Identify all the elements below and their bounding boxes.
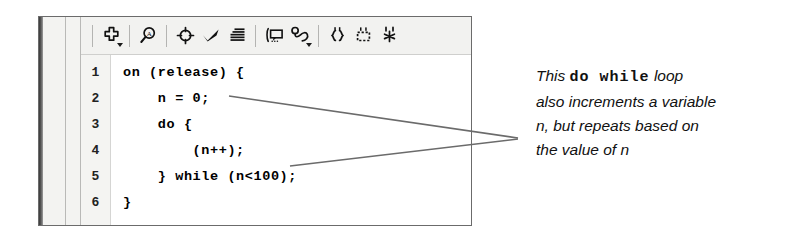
- code-line[interactable]: n = 0;: [123, 86, 471, 112]
- svg-text:A: A: [146, 30, 151, 38]
- annotation-text: the value of n: [536, 141, 629, 158]
- debug-loop-icon[interactable]: [287, 23, 313, 49]
- line-number: 3: [81, 112, 110, 138]
- toolbar-separator: [255, 25, 256, 47]
- panel-left-bevel: [39, 17, 43, 225]
- actions-toolbar: A: [81, 17, 471, 55]
- collapsed-pane-rail-1: [65, 17, 66, 225]
- toolbar-separator: [166, 25, 167, 47]
- line-number: 4: [81, 138, 110, 164]
- toolbar-separator: [318, 25, 319, 47]
- auto-format-lines-icon[interactable]: [224, 23, 250, 49]
- toolbar-separator: [129, 25, 130, 47]
- code-hint-balloon-icon[interactable]: [261, 23, 287, 49]
- plus-cross-icon[interactable]: [98, 23, 124, 49]
- annotation-line: also increments a variable: [536, 90, 784, 114]
- chevron-down-icon[interactable]: [117, 43, 123, 47]
- annotation-line: n, but repeats based on: [536, 114, 784, 138]
- annotation-line: This do while loop: [536, 64, 784, 90]
- collapse-block-icon[interactable]: [350, 23, 376, 49]
- actions-panel: A: [38, 16, 472, 226]
- code-line[interactable]: (n++);: [123, 138, 471, 164]
- annotation-text: This: [536, 67, 570, 84]
- annotation-text: n, but repeats based on: [536, 117, 699, 134]
- curly-braces-icon[interactable]: [324, 23, 350, 49]
- chevron-down-icon[interactable]: [306, 43, 312, 47]
- script-editor[interactable]: 1 2 3 4 5 6 on (release) { n = 0; do { (…: [81, 55, 471, 225]
- toolbar-separator: [92, 25, 93, 47]
- annotation-code-term: do while: [570, 69, 650, 86]
- expand-all-icon[interactable]: [376, 23, 402, 49]
- annotation-line: the value of n: [536, 138, 784, 162]
- annotation-text: also increments a variable: [536, 93, 716, 110]
- code-text[interactable]: on (release) { n = 0; do { (n++); } whil…: [111, 55, 471, 225]
- checkmark-icon[interactable]: [198, 23, 224, 49]
- code-line[interactable]: do {: [123, 112, 471, 138]
- find-magnifier-icon[interactable]: A: [135, 23, 161, 49]
- line-number: 6: [81, 190, 110, 216]
- code-line[interactable]: on (release) {: [123, 60, 471, 86]
- target-crosshair-icon[interactable]: [172, 23, 198, 49]
- annotation-callout: This do while loop also increments a var…: [536, 64, 784, 162]
- code-line[interactable]: }: [123, 190, 471, 216]
- code-line[interactable]: } while (n<100);: [123, 164, 471, 190]
- line-number: 1: [81, 60, 110, 86]
- annotation-text: loop: [650, 67, 684, 84]
- line-number-gutter: 1 2 3 4 5 6: [81, 55, 111, 225]
- line-number: 5: [81, 164, 110, 190]
- line-number: 2: [81, 86, 110, 112]
